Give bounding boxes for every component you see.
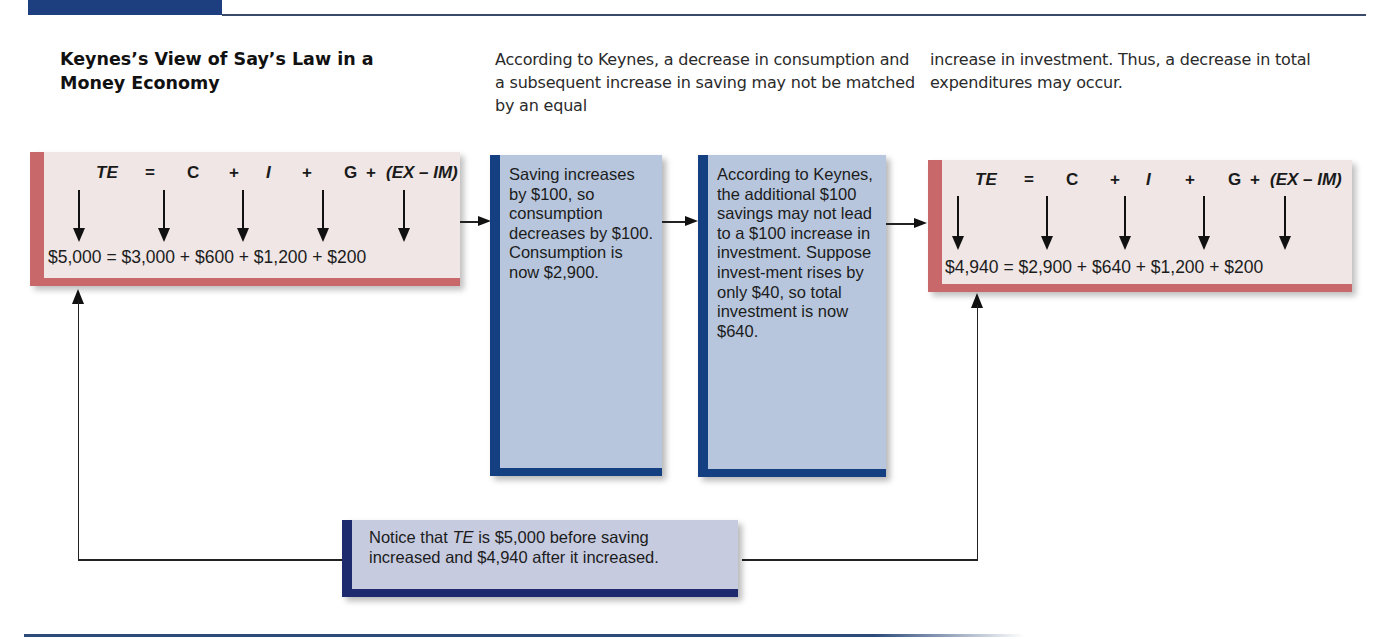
symbol-plus: + bbox=[1110, 170, 1120, 190]
symbol-net-exports: (EX – IM) bbox=[386, 163, 458, 183]
intro-paragraph-2: increase in investment. Thus, a decrease… bbox=[930, 48, 1370, 94]
note-text: is $5,000 before saving bbox=[474, 528, 649, 546]
symbol-te: TE bbox=[96, 163, 118, 183]
saving-step-box: Saving increases by $100, so consumption… bbox=[490, 155, 662, 476]
feedback-line-left-horizontal bbox=[78, 559, 344, 561]
symbol-net-exports: (EX – IM) bbox=[1270, 170, 1342, 190]
right-arrow-icon bbox=[685, 216, 698, 226]
connector-line bbox=[460, 221, 480, 223]
symbol-plus: + bbox=[1185, 170, 1195, 190]
before-values: $5,000 = $3,000 + $600 + $1,200 + $200 bbox=[48, 247, 366, 268]
symbol-c: C bbox=[1066, 170, 1078, 190]
symbol-te: TE bbox=[975, 170, 997, 190]
feedback-line-right bbox=[977, 305, 979, 560]
equation-symbols-row: TE = C + I + G + (EX – IM) bbox=[975, 170, 1355, 192]
symbol-equals: = bbox=[1024, 170, 1034, 190]
saving-step-text: Saving increases by $100, so consumption… bbox=[509, 165, 654, 283]
symbol-plus: + bbox=[1250, 170, 1260, 190]
symbol-i: I bbox=[266, 163, 271, 183]
right-arrow-icon bbox=[914, 218, 927, 228]
symbol-i: I bbox=[1146, 170, 1151, 190]
note-line-2: increased and $4,940 after it increased. bbox=[369, 548, 730, 568]
feedback-line-left bbox=[78, 300, 80, 560]
symbol-c: C bbox=[187, 163, 199, 183]
note-text: Notice that bbox=[369, 528, 452, 546]
note-te-symbol: TE bbox=[452, 528, 473, 546]
symbol-equals: = bbox=[145, 163, 155, 183]
intro-paragraph-1: According to Keynes, a decrease in consu… bbox=[495, 48, 915, 117]
after-values: $4,940 = $2,900 + $640 + $1,200 + $200 bbox=[945, 257, 1263, 278]
header-rule bbox=[222, 14, 1366, 16]
before-equation-box: TE = C + I + G + (EX – IM) $5,000 = $3,0… bbox=[30, 152, 460, 286]
connector-line bbox=[886, 223, 916, 225]
note-line-1: Notice that TE is $5,000 before saving bbox=[369, 528, 730, 548]
symbol-g: G bbox=[344, 163, 357, 183]
symbol-g: G bbox=[1228, 170, 1241, 190]
figure-title: Keynes’s View of Say’s Law in a Money Ec… bbox=[60, 47, 440, 95]
symbol-plus: + bbox=[366, 163, 376, 183]
symbol-plus: + bbox=[229, 163, 239, 183]
feedback-line-right-horizontal bbox=[742, 559, 978, 561]
after-equation-box: TE = C + I + G + (EX – IM) $4,940 = $2,9… bbox=[928, 160, 1352, 292]
symbol-plus: + bbox=[302, 163, 312, 183]
investment-step-text: According to Keynes, the additional $100… bbox=[717, 165, 878, 341]
exhibit-header-tab bbox=[28, 0, 222, 15]
footer-rule bbox=[24, 634, 1024, 637]
investment-step-box: According to Keynes, the additional $100… bbox=[698, 155, 886, 477]
note-box: Notice that TE is $5,000 before saving i… bbox=[342, 520, 738, 597]
connector-line bbox=[662, 221, 686, 223]
equation-symbols-row: TE = C + I + G + (EX – IM) bbox=[96, 163, 476, 185]
